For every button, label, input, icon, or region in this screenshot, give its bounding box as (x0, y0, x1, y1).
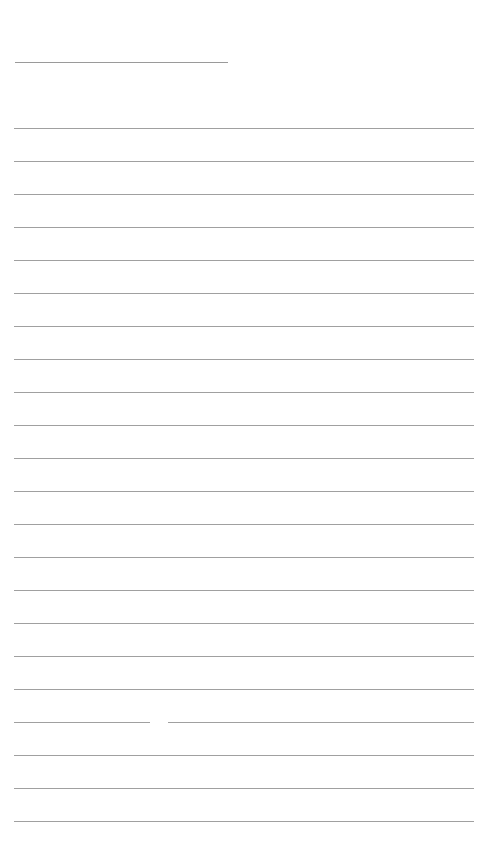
ruled-line (14, 161, 474, 162)
ruled-line (14, 788, 474, 789)
ruled-line (14, 392, 474, 393)
ruled-line (14, 458, 474, 459)
ruled-line (14, 656, 474, 657)
ruled-line (14, 491, 474, 492)
ruled-line (14, 722, 474, 723)
ruled-line (14, 359, 474, 360)
ruled-line (14, 194, 474, 195)
ruled-line (14, 557, 474, 558)
ruled-line (14, 326, 474, 327)
title-line (15, 62, 228, 63)
ruled-line (14, 128, 474, 129)
ruled-line (14, 821, 474, 822)
ruled-line (14, 227, 474, 228)
ruled-line (14, 590, 474, 591)
ruled-line (14, 755, 474, 756)
notebook-page (0, 0, 496, 865)
ruled-line (14, 623, 474, 624)
ruled-line (14, 689, 474, 690)
ruled-line (14, 293, 474, 294)
ruled-line (14, 524, 474, 525)
ruled-line (14, 260, 474, 261)
ruled-line (14, 425, 474, 426)
